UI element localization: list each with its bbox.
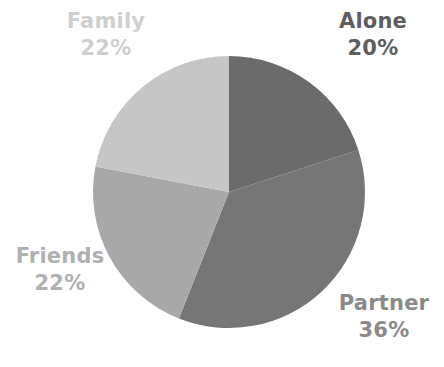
pie-label-family: Family 22% [44, 8, 168, 63]
pie-label-friends-value: 22% [2, 270, 118, 297]
pie-label-friends: Friends 22% [2, 243, 118, 298]
pie-label-alone-name: Alone [312, 8, 434, 35]
pie-label-family-value: 22% [44, 35, 168, 62]
pie-label-partner: Partner 36% [326, 290, 442, 345]
pie-label-partner-name: Partner [326, 290, 442, 317]
pie-label-friends-name: Friends [2, 243, 118, 270]
pie-label-partner-value: 36% [326, 317, 442, 344]
pie-slices [93, 56, 365, 328]
pie-label-alone: Alone 20% [312, 8, 434, 63]
pie-label-family-name: Family [44, 8, 168, 35]
pie-chart: Family 22% Alone 20% Friends 22% Partner… [0, 0, 444, 367]
pie-label-alone-value: 20% [312, 35, 434, 62]
